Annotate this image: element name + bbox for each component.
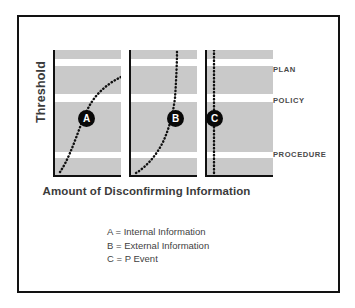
panel-b: B — [129, 50, 197, 177]
marker-b: B — [167, 110, 184, 127]
diagram-figure: Threshold A — [0, 0, 355, 308]
marker-c: C — [206, 110, 223, 127]
legend: A = Internal Information B = External In… — [107, 225, 209, 266]
legend-item-b: B = External Information — [107, 239, 209, 253]
x-axis-line-a — [53, 175, 121, 177]
y-axis-line-a — [53, 50, 55, 177]
x-axis-line-b — [129, 175, 197, 177]
plot-area: Threshold A — [19, 17, 342, 295]
zone-label-policy: POLICY — [273, 96, 305, 105]
curve-b — [129, 50, 197, 177]
legend-item-a: A = Internal Information — [107, 225, 209, 239]
y-axis-label: Threshold — [34, 37, 48, 147]
x-axis-label: Amount of Disconfirming Information — [24, 185, 269, 197]
zone-label-plan: PLAN — [273, 65, 296, 74]
legend-item-c: C = P Event — [107, 252, 209, 266]
y-axis-line-b — [129, 50, 131, 177]
zone-label-procedure: PROCEDURE — [273, 150, 326, 159]
x-axis-line-c — [205, 175, 273, 177]
panel-a: A — [53, 50, 121, 177]
marker-a: A — [78, 110, 95, 127]
panel-c: C — [205, 50, 273, 177]
figure-frame: Threshold A — [17, 15, 340, 293]
